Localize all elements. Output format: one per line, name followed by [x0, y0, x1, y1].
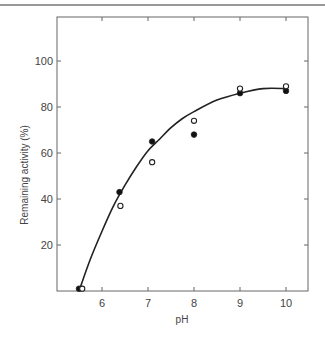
open-data-point — [191, 118, 196, 123]
x-axis: 678910 — [99, 17, 292, 309]
open-data-point — [80, 286, 85, 291]
y-tick-label: 20 — [41, 239, 53, 251]
y-axis: 20406080100 — [35, 55, 308, 251]
x-axis-label: pH — [176, 314, 189, 325]
open-data-point — [150, 160, 155, 165]
x-tick-label: 8 — [191, 297, 197, 309]
y-tick-label: 100 — [35, 55, 53, 67]
x-tick-label: 10 — [280, 297, 292, 309]
chart: 678910 20406080100 pH Remaining activity… — [0, 0, 325, 339]
filled-data-point — [149, 139, 155, 145]
y-tick-label: 60 — [41, 147, 53, 159]
x-tick-label: 7 — [145, 297, 151, 309]
data-points — [76, 84, 289, 292]
x-tick-label: 9 — [237, 297, 243, 309]
x-tick-label: 6 — [99, 297, 105, 309]
filled-data-point — [117, 189, 123, 195]
y-axis-label: Remaining activity (%) — [19, 125, 30, 224]
open-data-point — [118, 203, 123, 208]
y-tick-label: 40 — [41, 193, 53, 205]
y-tick-label: 80 — [41, 101, 53, 113]
filled-data-point — [191, 132, 197, 138]
fitted-curve — [79, 88, 286, 291]
open-data-point — [283, 84, 288, 89]
open-data-point — [237, 86, 242, 91]
